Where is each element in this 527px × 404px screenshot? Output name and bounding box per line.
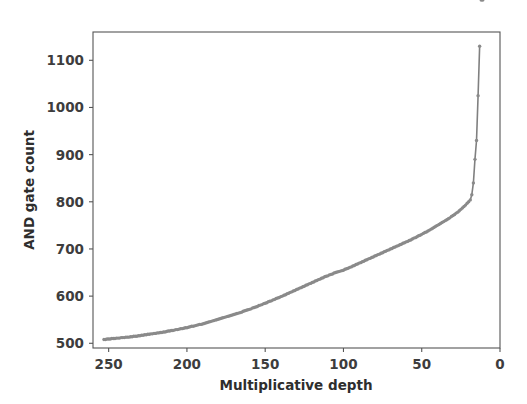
and-gate-count-line-chart: 50060070080090010001100 250200150100500 … bbox=[0, 0, 527, 404]
x-tick-label: 250 bbox=[95, 356, 123, 372]
data-point-marker bbox=[472, 181, 475, 184]
data-point-marker bbox=[469, 198, 472, 201]
data-point-marker bbox=[476, 94, 479, 97]
y-axis-title: AND gate count bbox=[21, 130, 37, 250]
data-point-marker bbox=[478, 44, 481, 47]
y-tick-label: 700 bbox=[56, 241, 84, 257]
y-tick-label: 500 bbox=[56, 335, 84, 351]
y-tick-label: 600 bbox=[56, 288, 84, 304]
data-point-marker bbox=[473, 158, 476, 161]
x-tick-label: 50 bbox=[412, 356, 431, 372]
x-tick-label: 150 bbox=[251, 356, 279, 372]
data-point-marker bbox=[470, 193, 473, 196]
y-tick-label: 900 bbox=[56, 147, 84, 163]
chart-figure: 50060070080090010001100 250200150100500 … bbox=[0, 0, 527, 404]
y-tick-label: 1100 bbox=[46, 52, 84, 68]
data-point-marker bbox=[475, 139, 478, 142]
x-tick-label: 100 bbox=[329, 356, 357, 372]
x-tick-label: 200 bbox=[173, 356, 201, 372]
x-axis-title: Multiplicative depth bbox=[219, 377, 372, 393]
y-tick-label: 1000 bbox=[46, 99, 84, 115]
x-tick-label: 0 bbox=[495, 356, 504, 372]
y-tick-label: 800 bbox=[56, 194, 84, 210]
